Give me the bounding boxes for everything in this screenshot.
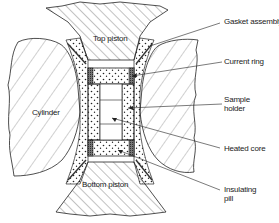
top-pill <box>88 68 134 84</box>
label-bottom-piston: Bottom piston <box>82 180 128 189</box>
label-cylinder: Cylinder <box>32 108 60 117</box>
bottom-current-ring-left <box>88 140 93 156</box>
bottom-current-ring-right <box>129 140 134 156</box>
heated-core <box>100 84 122 140</box>
callout-insulating-pill-line2: pill <box>224 194 256 203</box>
holder-wall-left <box>88 84 100 140</box>
callout-sample-holder-line2: holder <box>224 104 250 113</box>
callout-current-ring: Current ring <box>224 57 264 66</box>
callout-insulating-pill-line1: Insulating <box>224 185 256 194</box>
callout-sample-holder-line1: Sample <box>224 95 250 104</box>
label-top-piston: Top piston <box>93 34 127 43</box>
callout-heated-core: Heated core <box>224 144 265 153</box>
callout-insulating-pill: Insulating pill <box>224 185 256 203</box>
cylinder-right <box>140 39 198 172</box>
belt-apparatus-diagram: Top piston Cylinder Bottom piston Gasket… <box>0 0 279 223</box>
top-current-ring-left <box>88 68 93 84</box>
holder-wall-right <box>122 84 134 140</box>
callout-gasket-assembly: Gasket assembly <box>224 17 279 26</box>
callout-sample-holder: Sample holder <box>224 95 250 113</box>
